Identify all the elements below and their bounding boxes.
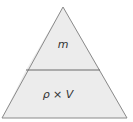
bottom-label-density-times-volume: ρ × V bbox=[43, 88, 75, 101]
formula-triangle: m ρ × V bbox=[0, 0, 133, 122]
top-label-mass: m bbox=[58, 38, 69, 51]
